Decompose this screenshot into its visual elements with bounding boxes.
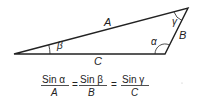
- side-label-c: C: [94, 55, 102, 67]
- term2-denominator: B: [88, 87, 95, 98]
- formula-term-1: Sin α A: [41, 74, 69, 98]
- term1-numerator: Sin α: [42, 74, 65, 85]
- angle-label-beta: β: [56, 40, 63, 51]
- artifact-dot: [181, 82, 182, 83]
- angle-label-alpha: α: [151, 36, 157, 47]
- equals-sign-2: =: [111, 79, 117, 90]
- term3-numerator: Sin γ: [122, 74, 144, 85]
- term2-numerator: Sin β: [80, 74, 103, 85]
- formula-term-3: Sin γ C: [121, 74, 149, 98]
- law-of-sines-diagram: A B C β α γ Sin α A = Sin β B = Sin γ C: [0, 0, 200, 103]
- side-label-a: A: [103, 16, 111, 28]
- term3-denominator: C: [131, 87, 139, 98]
- angle-beta-arc: [49, 45, 50, 54]
- term1-denominator: A: [50, 87, 58, 98]
- diagram-canvas: A B C β α γ Sin α A = Sin β B = Sin γ C: [0, 0, 200, 103]
- formula-term-2: Sin β B: [79, 74, 107, 98]
- equals-sign-1: =: [72, 79, 78, 90]
- triangle: [14, 8, 188, 54]
- side-label-b: B: [179, 29, 186, 41]
